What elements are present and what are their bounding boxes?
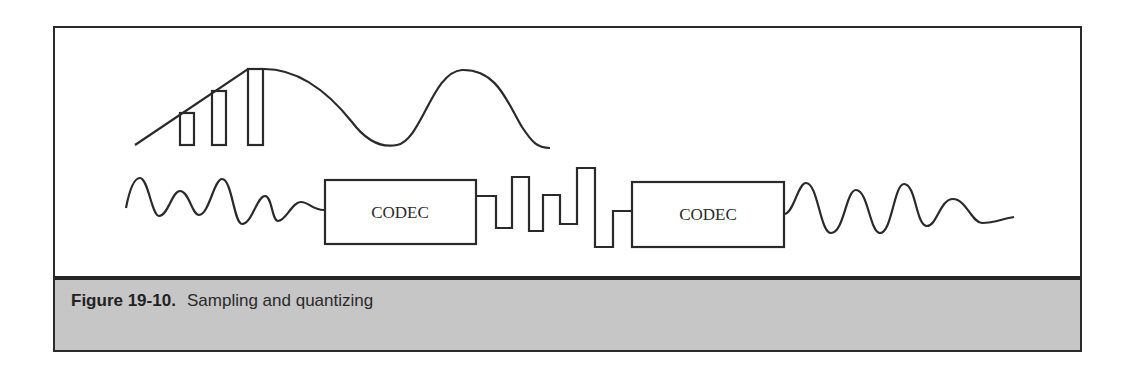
sampling-diagram: CODEC CODEC xyxy=(55,28,1084,278)
figure-caption: Sampling and quantizing xyxy=(187,291,373,311)
sample-bar-2 xyxy=(212,91,226,145)
caption-bar: Figure 19-10. Sampling and quantizing xyxy=(55,276,1080,350)
analog-input-wave xyxy=(126,178,324,224)
digital-signal xyxy=(476,168,632,247)
codec-label-1: CODEC xyxy=(371,203,429,222)
analog-output-wave xyxy=(785,183,1014,233)
diagram-area: CODEC CODEC xyxy=(55,28,1084,278)
figure-frame: CODEC CODEC Figure 19-10. Sampling and q… xyxy=(53,26,1082,352)
sample-bar-1 xyxy=(180,113,194,145)
sampled-analog-wave xyxy=(135,69,550,148)
figure-number: Figure 19-10. xyxy=(71,291,176,311)
codec-label-2: CODEC xyxy=(679,205,737,224)
sample-bar-3 xyxy=(248,69,263,145)
